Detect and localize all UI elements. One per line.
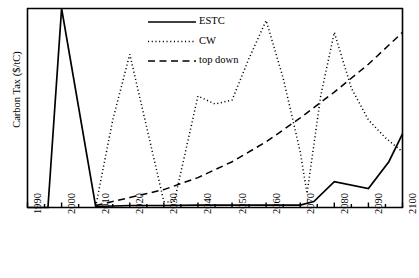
series-line-cw xyxy=(96,20,403,206)
plot-area xyxy=(0,0,419,278)
data-series-group xyxy=(28,9,403,208)
legend-line-samples xyxy=(148,22,196,61)
plot-frame xyxy=(27,8,403,208)
series-line-estc xyxy=(28,9,403,208)
carbon-tax-chart: Carbon Tax ($/tC) 1990200020102020203020… xyxy=(0,0,419,278)
